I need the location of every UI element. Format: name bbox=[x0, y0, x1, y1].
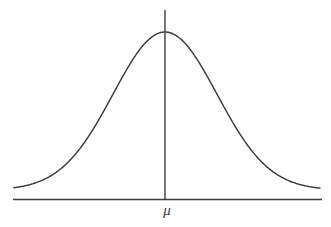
mean-symbol-label: μ bbox=[160, 203, 174, 218]
bell-curve-figure: μ bbox=[0, 0, 331, 227]
normal-distribution-plot bbox=[0, 0, 331, 227]
gaussian-curve-path bbox=[14, 32, 320, 188]
